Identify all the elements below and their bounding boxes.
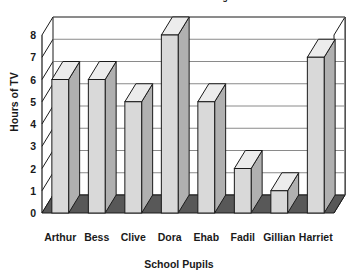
bar — [198, 84, 226, 213]
bar — [125, 84, 153, 213]
y-tick-label: 0 — [20, 208, 36, 219]
axis-depth-connector — [42, 62, 53, 80]
bar — [88, 62, 116, 214]
y-tick-label: 7 — [20, 52, 36, 63]
axis-depth-connector — [42, 17, 53, 35]
plot-right-wall — [334, 17, 345, 213]
bar-chart: Number of hours watched during the week … — [0, 0, 358, 279]
y-tick-label: 8 — [20, 30, 36, 41]
y-tick-label: 3 — [20, 141, 36, 152]
bar — [307, 39, 335, 213]
axis-depth-connector — [42, 84, 53, 102]
y-tick-label: 6 — [20, 75, 36, 86]
y-tick-label: 1 — [20, 186, 36, 197]
y-tick-label: 5 — [20, 97, 36, 108]
axis-depth-connector — [42, 173, 53, 191]
y-tick-label: 4 — [20, 119, 36, 130]
bar — [161, 17, 189, 213]
y-tick-label: 2 — [20, 164, 36, 175]
axis-depth-connector — [42, 151, 53, 169]
axis-depth-connector — [42, 106, 53, 124]
plot-floor — [42, 195, 345, 213]
axis-depth-connector — [42, 39, 53, 57]
x-tick-label: Harriet — [286, 232, 346, 243]
bar — [52, 62, 80, 214]
axis-depth-connector — [42, 128, 53, 146]
